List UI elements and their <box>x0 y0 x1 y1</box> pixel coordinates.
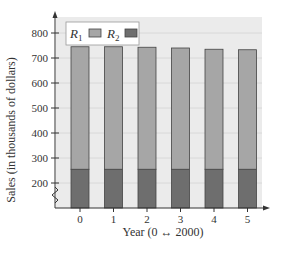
bar-r2 <box>205 169 223 208</box>
bar-r1 <box>71 47 89 170</box>
bar-r2 <box>71 169 89 208</box>
bar-r1 <box>239 50 257 170</box>
bar-r2 <box>138 169 156 208</box>
x-axis-arrow-icon <box>263 206 270 211</box>
x-tick-label: 0 <box>77 213 83 225</box>
stacked-bar-chart: 200300400500600700800 012345 R1 R2 Sales… <box>0 0 286 257</box>
bar-r1 <box>105 47 123 170</box>
x-tick-label: 1 <box>111 213 117 225</box>
y-tick-label: 400 <box>32 127 49 139</box>
y-axis-label: Sales (in thousands of dollars) <box>4 57 18 202</box>
y-axis-arrow-icon <box>53 11 58 18</box>
bar-r1 <box>172 48 190 169</box>
x-tick-label: 3 <box>178 213 184 225</box>
bar-r1 <box>138 47 156 169</box>
legend-swatch-r1 <box>89 29 101 37</box>
bar-r2 <box>172 169 190 208</box>
legend-swatch-r2 <box>125 29 137 37</box>
bar-r1 <box>205 49 223 169</box>
y-tick-label: 200 <box>32 177 49 189</box>
y-tick-label: 500 <box>32 102 49 114</box>
x-tick-labels: 012345 <box>77 208 251 225</box>
x-tick-label: 4 <box>211 213 217 225</box>
y-tick-label: 800 <box>32 27 49 39</box>
y-tick-label: 600 <box>32 77 49 89</box>
x-tick-label: 2 <box>144 213 150 225</box>
chart-canvas: 200300400500600700800 012345 R1 R2 Sales… <box>0 0 286 257</box>
bar-r2 <box>105 169 123 208</box>
y-tick-label: 700 <box>32 52 49 64</box>
y-tick-label: 300 <box>32 152 49 164</box>
legend: R1 R2 <box>66 22 139 45</box>
x-tick-label: 5 <box>245 213 251 225</box>
bar-r2 <box>239 169 257 208</box>
x-axis-label: Year (0 ↔ 2000) <box>122 225 203 239</box>
